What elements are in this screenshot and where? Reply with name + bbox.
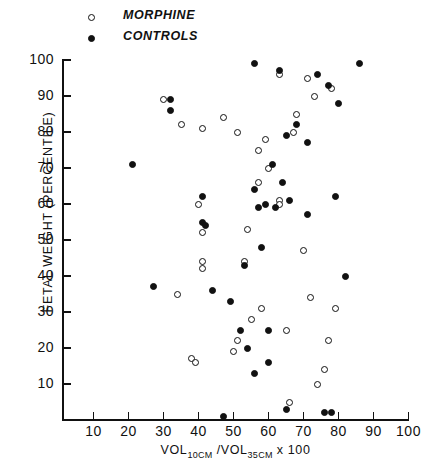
- data-point-morphine: [311, 93, 318, 100]
- data-point-morphine: [220, 114, 227, 121]
- data-point-controls: [356, 60, 363, 67]
- x-tick-100: [408, 412, 410, 419]
- x-axis-line: [62, 419, 409, 421]
- y-tick-50: [64, 239, 71, 241]
- data-point-morphine: [192, 359, 199, 366]
- data-point-controls: [293, 121, 300, 128]
- data-point-controls: [167, 107, 174, 114]
- scatter-plot-figure: MORPHINE CONTROLS 100908070605040302010 …: [0, 0, 443, 464]
- data-point-controls: [255, 204, 262, 211]
- x-tick-label-30: 30: [144, 423, 184, 439]
- y-tick-60: [64, 203, 71, 205]
- data-point-controls: [335, 100, 342, 107]
- data-point-controls: [304, 139, 311, 146]
- data-point-morphine: [199, 229, 206, 236]
- x-axis-title-prefix: VOL: [161, 443, 188, 457]
- data-point-controls: [304, 211, 311, 218]
- data-point-controls: [258, 244, 265, 251]
- data-point-controls: [332, 193, 339, 200]
- y-tick-80: [64, 131, 71, 133]
- data-point-controls: [269, 161, 276, 168]
- data-point-morphine: [178, 121, 185, 128]
- data-point-controls: [272, 204, 279, 211]
- data-point-morphine: [307, 294, 314, 301]
- x-tick-label-50: 50: [214, 423, 254, 439]
- data-point-controls: [342, 273, 349, 280]
- y-tick-30: [64, 311, 71, 313]
- data-point-controls: [265, 359, 272, 366]
- x-tick-10: [93, 412, 95, 419]
- data-point-controls: [202, 222, 209, 229]
- y-tick-90: [64, 95, 71, 97]
- x-axis-title: VOL10CM /VOL35CM x 100: [62, 443, 409, 460]
- data-point-controls: [251, 370, 258, 377]
- x-axis-title-sub2: 35CM: [248, 450, 273, 460]
- data-point-morphine: [230, 348, 237, 355]
- data-point-controls: [314, 71, 321, 78]
- data-point-controls: [251, 186, 258, 193]
- x-tick-20: [128, 412, 130, 419]
- x-tick-60: [268, 412, 270, 419]
- data-point-morphine: [199, 258, 206, 265]
- x-axis-title-mid: /VOL: [213, 443, 248, 457]
- data-point-controls: [325, 82, 332, 89]
- data-point-morphine: [321, 366, 328, 373]
- x-tick-label-90: 90: [354, 423, 394, 439]
- data-point-morphine: [255, 147, 262, 154]
- y-tick-20: [64, 347, 71, 349]
- y-tick-10: [64, 383, 71, 385]
- x-tick-50: [233, 412, 235, 419]
- data-point-morphine: [258, 305, 265, 312]
- data-point-controls: [265, 327, 272, 334]
- data-point-controls: [321, 409, 328, 416]
- data-point-morphine: [286, 399, 293, 406]
- data-point-morphine: [244, 226, 251, 233]
- x-tick-label-40: 40: [179, 423, 219, 439]
- data-point-morphine: [300, 247, 307, 254]
- data-point-morphine: [174, 291, 181, 298]
- data-point-morphine: [199, 125, 206, 132]
- data-point-controls: [276, 67, 283, 74]
- data-point-morphine: [304, 75, 311, 82]
- data-point-morphine: [314, 381, 321, 388]
- data-point-morphine: [234, 337, 241, 344]
- data-point-morphine: [290, 129, 297, 136]
- data-point-morphine: [195, 201, 202, 208]
- data-point-controls: [227, 298, 234, 305]
- data-point-morphine: [199, 265, 206, 272]
- x-tick-label-70: 70: [284, 423, 324, 439]
- data-point-morphine: [283, 327, 290, 334]
- data-point-morphine: [248, 316, 255, 323]
- data-point-controls: [209, 287, 216, 294]
- x-tick-label-60: 60: [249, 423, 289, 439]
- y-tick-100: [64, 59, 71, 61]
- data-point-morphine: [234, 129, 241, 136]
- x-tick-80: [338, 412, 340, 419]
- data-point-controls: [241, 262, 248, 269]
- y-tick-label-10: 10: [14, 375, 54, 391]
- x-tick-40: [198, 412, 200, 419]
- x-axis-title-suffix: x 100: [273, 443, 311, 457]
- data-point-controls: [220, 413, 227, 420]
- data-point-morphine: [293, 111, 300, 118]
- y-tick-70: [64, 167, 71, 169]
- data-point-controls: [279, 179, 286, 186]
- data-point-controls: [283, 132, 290, 139]
- data-point-morphine: [160, 96, 167, 103]
- x-tick-70: [303, 412, 305, 419]
- x-tick-label-80: 80: [319, 423, 359, 439]
- y-axis-title: FETAL WEIGHT (PERCENTILE): [41, 82, 55, 342]
- data-point-controls: [244, 345, 251, 352]
- x-tick-90: [373, 412, 375, 419]
- data-point-controls: [199, 193, 206, 200]
- x-tick-label-100: 100: [389, 423, 429, 439]
- data-point-controls: [150, 283, 157, 290]
- x-tick-30: [163, 412, 165, 419]
- data-point-morphine: [262, 136, 269, 143]
- data-point-controls: [237, 327, 244, 334]
- data-point-controls: [262, 201, 269, 208]
- data-point-controls: [286, 197, 293, 204]
- data-point-controls: [251, 60, 258, 67]
- data-point-controls: [167, 96, 174, 103]
- data-point-morphine: [255, 179, 262, 186]
